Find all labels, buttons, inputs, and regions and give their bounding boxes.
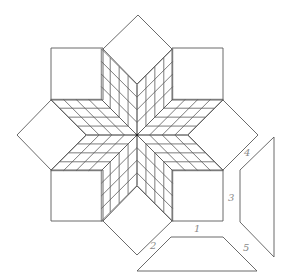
label-3: 3 — [228, 192, 234, 203]
lone-star-diagram: 12345 — [0, 0, 286, 275]
star-arm — [51, 135, 137, 171]
label-1: 1 — [194, 223, 200, 234]
star-arm — [137, 135, 223, 171]
right-diamond — [188, 100, 258, 170]
label-2: 2 — [149, 240, 156, 251]
bottom-left-square — [51, 170, 103, 221]
star-arm — [137, 49, 173, 135]
star-arm — [101, 135, 137, 221]
star-arm — [137, 135, 173, 221]
star-arm — [51, 99, 137, 135]
star-arm — [101, 49, 137, 135]
top-right-square — [172, 48, 223, 100]
star-center-dot — [136, 134, 139, 137]
left-diamond — [17, 100, 86, 170]
top-left-square — [51, 48, 103, 100]
label-4: 4 — [243, 147, 250, 158]
template-pieces-group — [137, 137, 274, 271]
star-arm — [137, 99, 223, 135]
bottom-right-square — [172, 170, 223, 221]
label-5: 5 — [243, 242, 249, 253]
